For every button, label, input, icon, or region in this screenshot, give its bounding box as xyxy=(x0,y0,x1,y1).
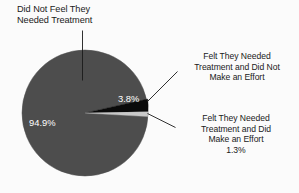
pie-chart-figure: Did Not Feel They Needed Treatment Felt … xyxy=(0,0,299,193)
callout-label-did-make-effort: Felt They Needed Treatment and Did Make … xyxy=(176,113,296,155)
callout-label-did-not-feel-need: Did Not Feel They Needed Treatment xyxy=(17,4,92,27)
callout-label-did-not-make-effort: Felt They Needed Treatment and Did Not M… xyxy=(178,51,296,83)
pie-chart-graphic xyxy=(0,0,299,193)
leader-line-did-make-effort xyxy=(148,114,176,128)
leader-line-did-not-make-effort xyxy=(148,72,178,102)
slice-value-label-did-not-feel-need: 94.9% xyxy=(29,117,56,128)
slice-value-label-did-not-make-effort: 3.8% xyxy=(118,93,139,104)
